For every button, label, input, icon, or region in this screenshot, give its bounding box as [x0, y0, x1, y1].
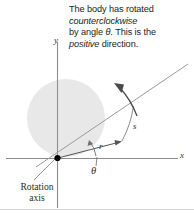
rotation-axis-label-word-1: Rotation — [20, 181, 53, 192]
radius-label: r — [99, 141, 103, 151]
caption-line-2: counterclockwise — [69, 16, 137, 26]
caption-line-1: The body has rotated — [69, 4, 154, 14]
figure-caption: The body has rotated counterclockwise by… — [69, 4, 193, 50]
x-axis-label: x — [180, 150, 184, 160]
rotation-axis-label-word-2: axis — [29, 192, 44, 203]
caption-line-4b: direction. — [99, 39, 138, 49]
caption-line-4-italic: positive — [69, 39, 99, 49]
arc-length-label: s — [133, 121, 137, 131]
caption-line-3a: by angle — [69, 27, 105, 37]
y-axis-label: y — [54, 35, 58, 45]
rotation-axis-label: Rotation axis — [6, 181, 68, 203]
rotating-body-disk — [27, 79, 105, 157]
arc-length-s — [122, 106, 134, 141]
radius-vector-arrowhead — [115, 140, 123, 146]
rotation-direction-arrow — [120, 88, 137, 116]
rotation-diagram-figure: The body has rotated counterclockwise by… — [0, 0, 194, 214]
caption-line-3c: . This is the — [110, 27, 156, 37]
origin-rotation-axis-dot — [54, 155, 60, 161]
angle-theta-label: θ — [91, 165, 96, 176]
